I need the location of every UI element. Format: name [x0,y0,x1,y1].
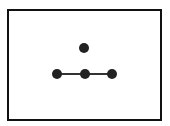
node-left [52,69,62,79]
graph-canvas [0,0,170,126]
node-top [79,43,89,53]
node-center [80,69,90,79]
node-right [107,69,117,79]
